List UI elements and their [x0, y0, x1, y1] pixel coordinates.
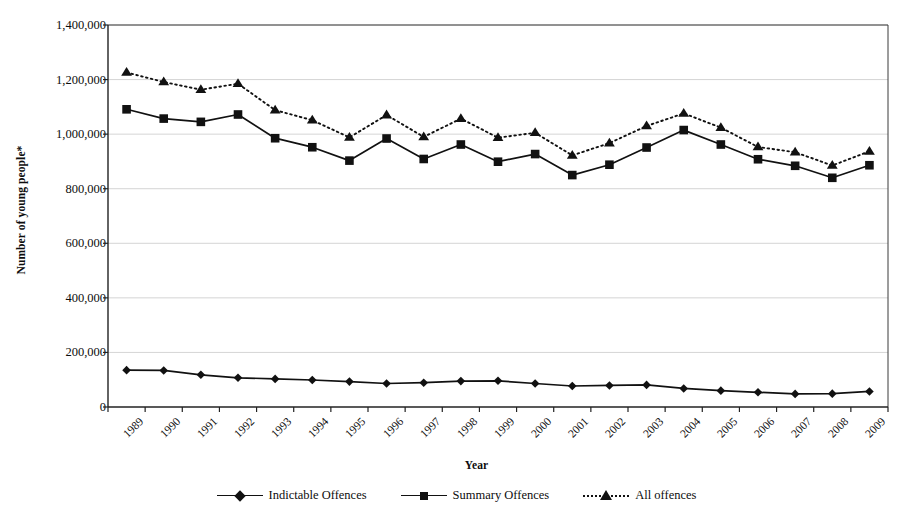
diamond-marker-icon	[234, 490, 245, 501]
x-axis-title-label: Year	[465, 459, 488, 471]
chart-container: Number of young people* 0200,000400,0006…	[0, 0, 913, 524]
x-axis-title: Year	[0, 455, 913, 473]
legend-item[interactable]: Indictable Offences	[217, 488, 367, 503]
x-axis-tick-labels: 1989199019911992199319941995199619971998…	[0, 0, 913, 524]
triangle-marker-icon	[600, 490, 612, 500]
square-marker-icon	[420, 492, 428, 500]
chart-legend: Indictable OffencesSummary OffencesAll o…	[0, 488, 913, 503]
legend-swatch	[401, 489, 447, 503]
legend-label: Indictable Offences	[269, 488, 367, 503]
legend-item[interactable]: Summary Offences	[401, 488, 550, 503]
legend-item[interactable]: All offences	[583, 488, 696, 503]
legend-swatch	[583, 489, 629, 503]
legend-label: All offences	[635, 488, 696, 503]
legend-label: Summary Offences	[453, 488, 550, 503]
legend-swatch	[217, 489, 263, 503]
